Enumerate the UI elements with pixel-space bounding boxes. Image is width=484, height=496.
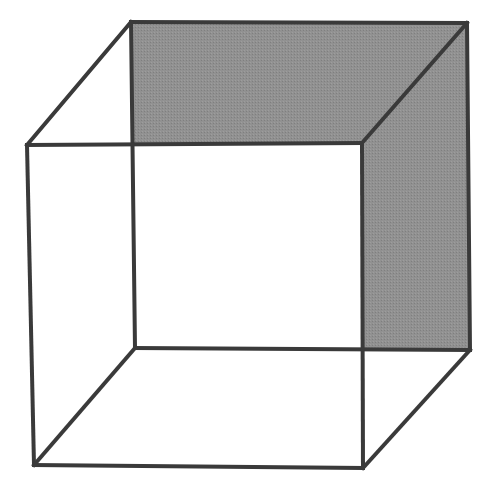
edge-front-right-edge (362, 143, 363, 468)
necker-cube-figure (0, 0, 484, 496)
edge-back-top-edge (131, 22, 467, 23)
figure-canvas (0, 0, 484, 496)
edge-back-bottom-edge (135, 348, 470, 350)
face-front-face (27, 143, 363, 468)
edge-front-top-edge (27, 143, 362, 145)
